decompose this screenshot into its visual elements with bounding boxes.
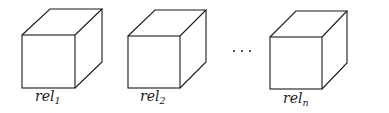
- cube-rel-2: rel2: [128, 10, 206, 106]
- ellipsis: [233, 50, 251, 52]
- cube-rel-n: reln: [270, 11, 347, 108]
- cube-label-2: rel2: [140, 88, 166, 106]
- cube-label-n: reln: [283, 90, 309, 108]
- cube-rel-1: rel1: [22, 9, 102, 106]
- relations-diagram: rel1 rel2 reln: [0, 0, 389, 113]
- cube-label-1: rel1: [35, 88, 61, 106]
